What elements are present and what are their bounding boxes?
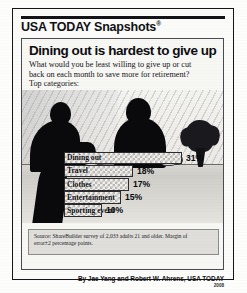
question-line-2: back on each month to save more for reti… xyxy=(29,70,219,80)
snapshot-scan: USA TODAY Snapshots® Dining out is harde… xyxy=(0,0,247,293)
survey-question: What would you be least willing to give … xyxy=(29,60,219,89)
bar-value-sporting-event: 10% xyxy=(106,205,123,215)
table-row: Entertainment 15% xyxy=(64,191,222,203)
brand-title: USA TODAY Snapshots® xyxy=(21,20,225,34)
infographic-frame: USA TODAY Snapshots® Dining out is harde… xyxy=(12,8,234,280)
bar-value-clothes: 17% xyxy=(133,179,150,189)
plant-foliage-icon xyxy=(185,120,215,152)
bar-label-entertainment: Entertainment xyxy=(67,193,115,202)
byline-year: 2008 xyxy=(214,283,224,288)
question-line-1: What would you be least willing to give … xyxy=(29,60,219,70)
question-line-3: Top categories: xyxy=(29,79,219,89)
bar-chart: Dining out 31% Travel 18% Clothes 17% En… xyxy=(64,152,222,218)
page-title: Dining out is hardest to give up xyxy=(29,43,219,58)
bar-label-travel: Travel xyxy=(67,166,88,175)
snapshot-card: Dining out is hardest to give up What wo… xyxy=(21,38,224,270)
table-row: Dining out 31% xyxy=(64,152,222,164)
bar-value-travel: 18% xyxy=(137,166,154,176)
registered-trademark-icon: ® xyxy=(156,20,161,27)
bar-label-dining-out: Dining out xyxy=(67,153,101,162)
table-row: Clothes 17% xyxy=(64,178,222,190)
byline-credit: By Jae Yang and Robert W. Ahrens, USA TO… xyxy=(78,275,224,282)
table-row: Travel 18% xyxy=(64,165,222,177)
brand-rule-divider xyxy=(21,16,225,19)
source-line-2: error±2 percentage points. xyxy=(34,240,213,247)
bar-value-dining-out: 31% xyxy=(186,153,203,163)
brand-name: USA TODAY Snapshots xyxy=(21,20,156,34)
table-row: Sporting event 10% xyxy=(64,204,222,216)
bar-value-entertainment: 15% xyxy=(125,192,142,202)
source-box: Source: ShareBuilder survey of 2,033 adu… xyxy=(28,229,219,255)
bar-label-clothes: Clothes xyxy=(67,180,91,189)
source-line-1: Source: ShareBuilder survey of 2,033 adu… xyxy=(34,233,213,240)
